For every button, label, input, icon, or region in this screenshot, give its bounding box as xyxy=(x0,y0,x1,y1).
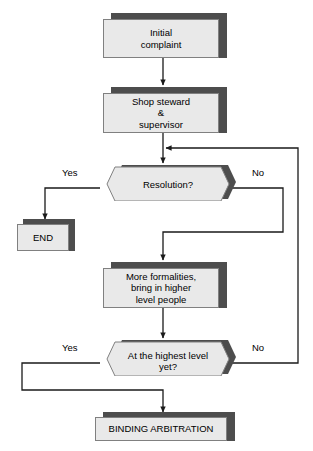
edge-resolution-yes-to-end xyxy=(45,188,100,219)
shop-steward-body[interactable]: Shop steward & supervisor xyxy=(103,93,219,133)
resolution-decision-body[interactable] xyxy=(100,165,236,201)
flowchart-canvas: Initial complaint Shop steward & supervi… xyxy=(0,0,313,451)
initial-complaint-body[interactable]: Initial complaint xyxy=(103,19,219,58)
branch-label-highest-level-yes: Yes xyxy=(62,342,78,353)
end-body[interactable]: END xyxy=(17,224,69,251)
node-binding-arbitration: BINDING ARBITRATION xyxy=(95,412,235,441)
more-formalities-label: More formalities, bring in higher level … xyxy=(104,271,218,305)
end-label: END xyxy=(18,232,68,243)
node-more-formalities: More formalities, bring in higher level … xyxy=(103,262,227,308)
node-shop-steward: Shop steward & supervisor xyxy=(103,87,227,133)
highest-level-decision-body[interactable] xyxy=(100,340,236,376)
node-resolution-decision: Resolution? xyxy=(100,165,236,201)
binding-arbitration-body[interactable]: BINDING ARBITRATION xyxy=(95,417,227,441)
more-formalities-body[interactable]: More formalities, bring in higher level … xyxy=(103,268,219,308)
branch-label-resolution-no: No xyxy=(252,167,264,178)
node-initial-complaint: Initial complaint xyxy=(103,13,227,58)
branch-label-highest-level-no: No xyxy=(252,342,264,353)
initial-complaint-label: Initial complaint xyxy=(104,27,218,49)
node-end: END xyxy=(17,219,75,251)
branch-label-resolution-yes: Yes xyxy=(62,167,78,178)
node-highest-level-decision: At the highest level yet? xyxy=(100,340,236,376)
binding-arbitration-label: BINDING ARBITRATION xyxy=(96,423,226,434)
shop-steward-label: Shop steward & supervisor xyxy=(104,96,218,130)
